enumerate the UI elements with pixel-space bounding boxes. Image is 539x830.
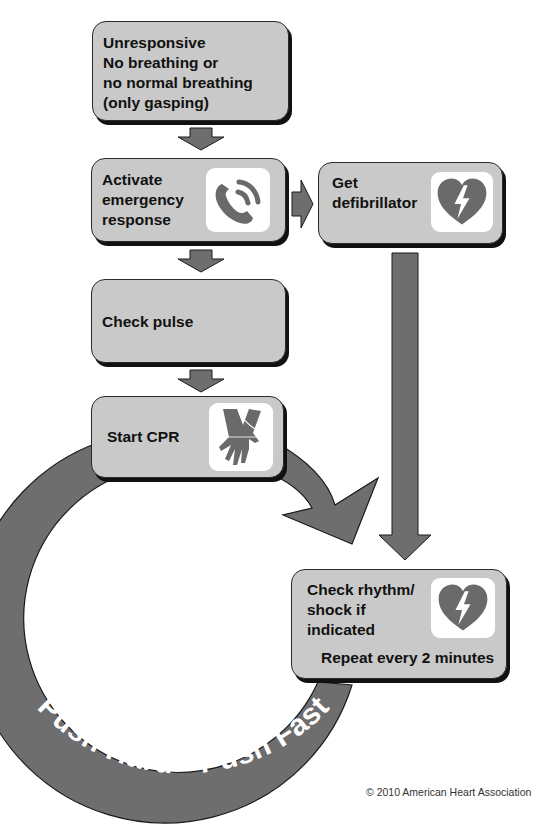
- arrow-down-long: [379, 253, 431, 560]
- arrow-right-defib: [292, 180, 313, 228]
- copyright-notice: © 2010 American Heart Association: [366, 786, 531, 798]
- arrow-down-1: [178, 128, 224, 150]
- step-unresponsive: Unresponsive No breathing or no normal b…: [92, 21, 289, 121]
- phone-icon: [206, 168, 270, 232]
- heart-lightning-icon: [431, 172, 493, 232]
- step-check-pulse: Check pulse: [91, 279, 286, 363]
- step-check-rhythm-label: Check rhythm/ shock if indicated: [307, 580, 415, 640]
- step-get-defibrillator: Get defibrillator: [318, 162, 503, 244]
- hands-icon-tile: [209, 403, 273, 471]
- phone-icon-tile: [206, 168, 270, 232]
- step-start-cpr: Start CPR: [91, 396, 284, 478]
- heart-lightning-icon: [431, 578, 495, 638]
- heart-lightning-icon-tile: [431, 172, 493, 232]
- step-check-rhythm: Check rhythm/ shock if indicated Repeat …: [291, 569, 507, 679]
- step-start-cpr-label: Start CPR: [107, 427, 179, 447]
- step-activate-label: Activate emergency response: [102, 170, 184, 230]
- heart-lightning-icon-tile-2: [431, 578, 495, 638]
- hands-compression-icon: [209, 403, 273, 471]
- step-unresponsive-label: Unresponsive No breathing or no normal b…: [103, 33, 253, 113]
- step-check-rhythm-sublabel: Repeat every 2 minutes: [321, 648, 494, 668]
- arrow-down-3: [178, 370, 224, 392]
- step-defibrillator-label: Get defibrillator: [332, 173, 417, 213]
- step-check-pulse-label: Check pulse: [102, 312, 193, 332]
- step-activate-emergency: Activate emergency response: [91, 158, 286, 242]
- arrow-down-2: [178, 250, 224, 272]
